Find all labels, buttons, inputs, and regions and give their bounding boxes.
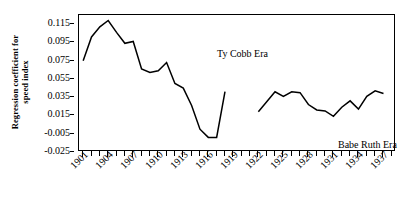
x-tick-mark bbox=[291, 151, 292, 156]
plot-area: Ty Cobb Era Babe Ruth Era bbox=[78, 14, 395, 151]
y-tick-mark bbox=[70, 133, 74, 134]
x-tick-mark bbox=[366, 151, 367, 156]
y-tick-mark bbox=[70, 96, 74, 97]
y-tick-label: 0.095 bbox=[48, 36, 71, 46]
series-line bbox=[83, 20, 225, 137]
y-tick-label: -0.005 bbox=[44, 128, 70, 138]
series-lines bbox=[79, 15, 396, 152]
x-tick-mark bbox=[191, 151, 192, 156]
y-axis-title: Regression coefficient for speed index bbox=[0, 0, 30, 170]
series-line bbox=[258, 91, 383, 117]
y-axis-title-line2: speed index bbox=[20, 60, 30, 103]
x-tick-mark bbox=[116, 151, 117, 156]
y-tick-mark bbox=[70, 60, 74, 61]
y-tick-mark bbox=[70, 41, 74, 42]
annotation-ty-cobb-era: Ty Cobb Era bbox=[217, 48, 268, 59]
y-tick-label: 0.015 bbox=[48, 109, 71, 119]
x-tick-mark bbox=[216, 151, 217, 156]
y-tick-label: 0.115 bbox=[48, 18, 70, 28]
y-axis-ticks: 0.1150.0950.0750.0550.0350.015-0.005-0.0… bbox=[30, 0, 74, 160]
y-tick-mark bbox=[70, 114, 74, 115]
x-tick-mark bbox=[391, 151, 392, 156]
x-tick-mark bbox=[266, 151, 267, 156]
x-tick-mark bbox=[341, 151, 342, 156]
chart-figure: Regression coefficient for speed index 0… bbox=[0, 0, 410, 213]
y-tick-mark bbox=[70, 23, 74, 24]
x-tick-mark bbox=[141, 151, 142, 156]
y-tick-label: 0.035 bbox=[48, 91, 71, 101]
y-tick-label: 0.055 bbox=[48, 73, 71, 83]
y-tick-mark bbox=[70, 78, 74, 79]
y-tick-label: -0.025 bbox=[44, 146, 70, 156]
x-axis-tick-labels: 1901190419071910191319161919192219251928… bbox=[0, 157, 410, 213]
y-tick-label: 0.075 bbox=[48, 55, 71, 65]
y-axis-title-line1: Regression coefficient for bbox=[10, 35, 20, 130]
annotation-babe-ruth-era: Babe Ruth Era bbox=[338, 139, 397, 150]
y-tick-mark bbox=[70, 151, 74, 152]
x-tick-mark bbox=[316, 151, 317, 156]
x-tick-mark bbox=[241, 151, 242, 156]
x-tick-mark bbox=[91, 151, 92, 156]
x-tick-mark bbox=[166, 151, 167, 156]
